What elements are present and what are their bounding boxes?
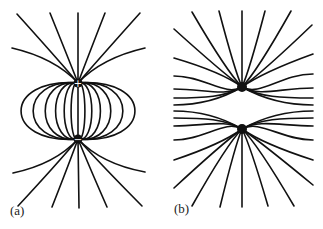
bottom-charge-field-line [242,129,294,206]
outgoing-field-line [78,48,145,83]
dipole-loop-left [21,83,78,140]
lower-charge [237,124,247,134]
dipole-loop-left [71,83,78,140]
top-charge-field-line [242,11,291,87]
outgoing-field-line [78,13,140,83]
bottom-charge-field-line [192,129,242,206]
panel-b-like-charges [174,11,313,207]
panel-b-label: (b) [174,201,189,217]
dipole-loop-right [78,83,85,140]
outgoing-field-line [78,13,105,83]
outgoing-field-line [17,14,78,83]
top-charge-field-line [192,12,242,87]
field-lines-figure: +− [0,0,323,229]
plus-sign: + [74,78,82,89]
bottom-charge-field-line [174,129,242,160]
upper-charge [237,82,247,92]
incoming-field-line [13,139,78,173]
bottom-charge-field-line [242,126,313,140]
minus-sign: − [74,134,82,145]
dipole-loop-right [78,83,135,140]
incoming-field-line [78,139,142,206]
top-charge-field-line [174,76,242,90]
incoming-field-line [52,139,78,207]
outgoing-field-line [12,48,78,83]
incoming-field-line [78,139,107,207]
top-charge-field-line [242,74,313,90]
panel-a-dipole: +− [12,13,145,208]
incoming-field-line [78,139,79,208]
incoming-field-line [18,139,78,206]
outgoing-field-line [50,13,78,83]
incoming-field-line [78,139,145,172]
panel-a-label: (a) [10,203,24,219]
